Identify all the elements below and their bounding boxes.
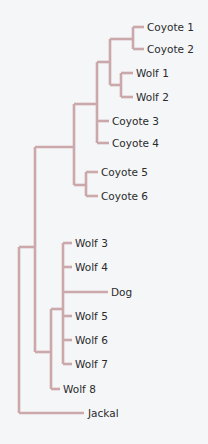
leaf-wolf-1: Wolf 1	[136, 67, 169, 79]
tree-branches	[19, 27, 144, 413]
leaf-coyote-3: Coyote 3	[112, 115, 159, 127]
leaf-coyote-6: Coyote 6	[101, 190, 148, 202]
leaf-wolf-4: Wolf 4	[75, 261, 108, 273]
leaf-wolf-5: Wolf 5	[75, 310, 108, 322]
leaf-wolf-2: Wolf 2	[136, 91, 169, 103]
leaf-dog: Dog	[111, 286, 132, 298]
phylogenetic-tree	[0, 0, 208, 444]
leaf-coyote-4: Coyote 4	[112, 137, 159, 149]
leaf-jackal: Jackal	[88, 407, 119, 419]
leaf-wolf-7: Wolf 7	[75, 358, 108, 370]
leaf-wolf-8: Wolf 8	[63, 383, 96, 395]
leaf-wolf-3: Wolf 3	[75, 237, 108, 249]
leaf-coyote-2: Coyote 2	[147, 43, 194, 55]
leaf-coyote-5: Coyote 5	[101, 166, 148, 178]
leaf-coyote-1: Coyote 1	[147, 21, 194, 33]
leaf-wolf-6: Wolf 6	[75, 334, 108, 346]
